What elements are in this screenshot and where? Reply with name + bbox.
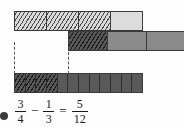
bar-cell xyxy=(79,12,111,30)
fraction-one-third: 1 3 xyxy=(43,98,54,125)
numerator: 3 xyxy=(16,98,26,111)
bar-cell xyxy=(69,32,108,50)
right-alignment-guide xyxy=(68,52,69,74)
bar-cell xyxy=(58,74,69,92)
numerator: 5 xyxy=(75,98,85,111)
five-twelfths-result-bar xyxy=(14,73,143,93)
denominator: 4 xyxy=(16,112,26,125)
bar-cell xyxy=(47,12,79,30)
equals-operator: = xyxy=(59,103,66,120)
bar-cell xyxy=(132,74,142,92)
equation: 3 4 − 1 3 = 5 12 xyxy=(14,97,89,125)
denominator: 3 xyxy=(44,112,54,125)
bar-cell xyxy=(36,74,47,92)
bar-cell xyxy=(147,32,184,50)
three-quarters-bar xyxy=(14,11,143,31)
bar-cell xyxy=(26,74,37,92)
numerator: 1 xyxy=(44,98,54,111)
minus-operator: − xyxy=(31,103,38,120)
bar-cell xyxy=(79,74,90,92)
bar-cell xyxy=(90,74,101,92)
bar-cell xyxy=(15,12,47,30)
bar-cell xyxy=(15,74,26,92)
figure-canvas: 3 4 − 1 3 = 5 12 xyxy=(0,0,184,127)
corner-dot-artifact xyxy=(0,112,8,120)
fraction-five-twelfths: 5 12 xyxy=(72,98,88,125)
bar-cell xyxy=(100,74,111,92)
bar-cell xyxy=(111,74,122,92)
bar-cell xyxy=(47,74,58,92)
bar-cell xyxy=(111,12,142,30)
bar-cell xyxy=(68,74,79,92)
fraction-three-quarters: 3 4 xyxy=(15,98,26,125)
bar-cell xyxy=(122,74,133,92)
denominator: 12 xyxy=(72,112,88,125)
left-alignment-guide xyxy=(14,42,15,74)
one-third-bar xyxy=(68,31,184,51)
bar-cell xyxy=(108,32,147,50)
